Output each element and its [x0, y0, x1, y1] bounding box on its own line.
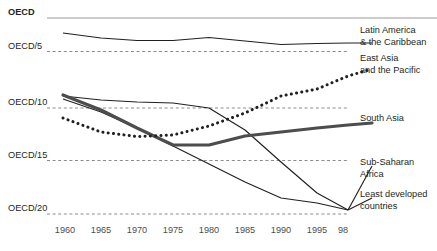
legend-label-east-asia-line2: and the Pacific [360, 65, 421, 75]
x-tick-label-1995: 1995 [307, 225, 327, 235]
x-tick-label-1990: 1990 [271, 225, 291, 235]
y-tick-label-oecd-15: OECD/15 [8, 150, 47, 160]
legend-label-sub-saharan-africa-line1: Sub-Saharan [360, 157, 414, 167]
y-tick-label-oecd-10: OECD/10 [8, 97, 47, 107]
x-tick-label-1970: 1970 [127, 225, 147, 235]
x-tick-label-1985: 1985 [235, 225, 255, 235]
series-lines [63, 33, 372, 210]
legend-label-south-asia: South Asia [360, 113, 405, 123]
legend-label-east-asia-line1: East Asia [360, 53, 399, 63]
chart-figure: OECD OECD/5 OECD/10 OECD/15 OECD/20 1960… [0, 0, 437, 251]
x-tick-label-1980: 1980 [199, 225, 219, 235]
legend-label-latin-america-line2: & the Caribbean [360, 37, 426, 47]
legend-label-sub-saharan-africa-line2: Africa [360, 169, 384, 179]
series-line-latin-america [63, 33, 372, 45]
line-chart-svg: OECD OECD/5 OECD/10 OECD/15 OECD/20 1960… [0, 0, 437, 251]
series-line-least-developed-countries [63, 99, 348, 210]
chart-legend: Latin America & the Caribbean East Asia … [360, 25, 427, 211]
series-line-south-asia [63, 95, 372, 145]
legend-label-least-developed-line1: Least developed [360, 189, 427, 199]
y-tick-label-oecd: OECD [8, 7, 35, 17]
y-tick-label-oecd-5: OECD/5 [8, 41, 42, 51]
y-axis-labels: OECD OECD/5 OECD/10 OECD/15 OECD/20 [8, 7, 47, 213]
x-tick-label-1975: 1975 [163, 225, 183, 235]
x-axis-labels: 1960 1965 1970 1975 1980 1985 1990 1995 … [55, 225, 348, 235]
legend-label-latin-america-line1: Latin America [360, 25, 417, 35]
y-tick-label-oecd-20: OECD/20 [8, 203, 47, 213]
x-tick-label-98: 98 [338, 225, 348, 235]
x-tick-label-1965: 1965 [91, 225, 111, 235]
x-tick-label-1960: 1960 [55, 225, 75, 235]
legend-label-least-developed-line2: countries [360, 201, 398, 211]
